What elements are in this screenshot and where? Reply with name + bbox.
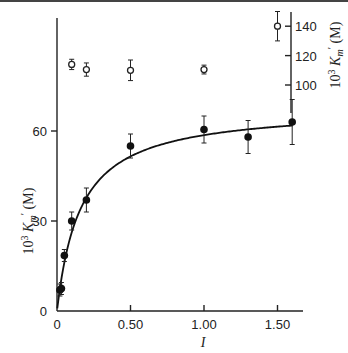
x-tick-label: 0.50 bbox=[118, 317, 143, 332]
data-points bbox=[56, 12, 296, 297]
fit-curve bbox=[57, 126, 292, 309]
open-data-point bbox=[69, 59, 75, 69]
y-tick-label: 0 bbox=[40, 304, 47, 319]
open-data-point bbox=[275, 12, 281, 41]
y2-axis-title: 103 Km′ (M) bbox=[325, 21, 345, 88]
y-tick-label: 60 bbox=[33, 124, 47, 139]
open-data-point bbox=[201, 65, 207, 74]
y2-tick-label: 140 bbox=[295, 19, 317, 34]
filled-data-point bbox=[68, 212, 76, 230]
x-tick-label: 1.50 bbox=[265, 317, 290, 332]
y2-tick-label: 120 bbox=[295, 49, 317, 64]
open-data-point bbox=[128, 60, 134, 81]
open-data-point bbox=[83, 63, 89, 76]
axis-labels: I 103 Km′ (M) 103 Km′ (M) bbox=[18, 21, 345, 350]
filled-data-point bbox=[200, 116, 208, 143]
axes: 00.501.001.5003060100120140 bbox=[33, 12, 317, 332]
x-tick-label: 1.00 bbox=[191, 317, 216, 332]
svg-text:103 Km′ (M): 103 Km′ (M) bbox=[325, 21, 345, 88]
chart-area: 00.501.001.5003060100120140 I 103 Km′ (M… bbox=[0, 0, 348, 353]
filled-data-point bbox=[288, 100, 296, 145]
filled-data-point bbox=[244, 121, 252, 154]
y2-tick-label: 100 bbox=[295, 78, 317, 93]
svg-text:103 Km′ (M): 103 Km′ (M) bbox=[18, 187, 38, 254]
x-tick-label: 0 bbox=[53, 317, 60, 332]
filled-data-point bbox=[83, 188, 91, 212]
x-axis-title: I bbox=[200, 335, 207, 350]
y-axis-title: 103 Km′ (M) bbox=[18, 187, 38, 254]
